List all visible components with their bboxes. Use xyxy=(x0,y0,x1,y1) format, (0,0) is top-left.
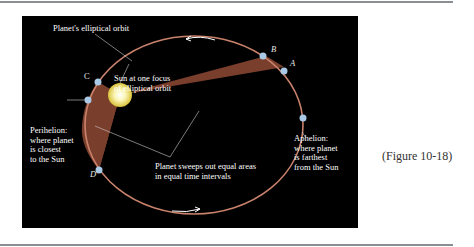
bottom-rule xyxy=(0,244,453,246)
figure-reference: (Figure 10-18) xyxy=(382,149,452,164)
point-c-label: C xyxy=(84,71,90,81)
perihelion-label: Perihelion: where planet is closest to t… xyxy=(30,126,74,164)
orbit-label: Planet's elliptical orbit xyxy=(53,24,129,34)
point-a-label: A xyxy=(290,58,295,68)
point-d xyxy=(96,167,103,174)
point-aphelion xyxy=(300,115,307,122)
point-d-label: D xyxy=(90,169,96,179)
point-c xyxy=(95,79,102,86)
equal-areas-label: Planet sweeps out equal areas in equal t… xyxy=(155,162,256,181)
kepler-orbit-diagram: Planet's elliptical orbit Sun at one foc… xyxy=(22,16,358,228)
point-perihelion xyxy=(85,97,92,104)
orbit-graphic xyxy=(22,16,358,228)
point-b xyxy=(260,53,267,60)
sun-label: Sun at one focus of elliptical orbit xyxy=(114,74,171,93)
point-a xyxy=(281,68,288,75)
point-b-label: B xyxy=(271,44,276,54)
top-rule xyxy=(0,1,453,3)
aphelion-label: Aphelion: where planet is farthest from … xyxy=(294,134,338,172)
